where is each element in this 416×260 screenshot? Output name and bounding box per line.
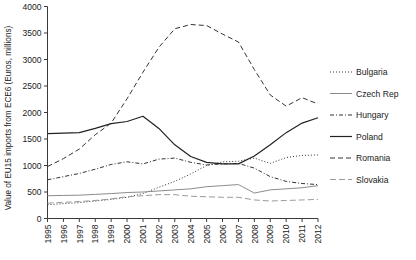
x-tick-label: 1999 xyxy=(106,224,116,243)
x-tick-label: 2002 xyxy=(154,224,164,243)
series-line-bulgaria xyxy=(48,155,319,205)
x-tick-label: 2007 xyxy=(234,224,244,243)
x-tick-label: 1996 xyxy=(59,224,69,243)
y-tick-label: 1000 xyxy=(23,161,42,171)
x-tick-label: 2012 xyxy=(313,224,323,243)
legend-label-hungary[interactable]: Hungary xyxy=(356,110,389,120)
chart-figure: Value of EU15 imports from ECE6 (Euros, … xyxy=(0,0,416,260)
y-tick-label: 3500 xyxy=(23,28,42,38)
x-tick-labels: 1995199619971998199920002001200220032004… xyxy=(43,224,324,243)
series-line-hungary xyxy=(48,158,319,185)
series-line-poland xyxy=(48,116,319,164)
x-tick-label: 1995 xyxy=(43,224,53,243)
y-tick-label: 2000 xyxy=(23,108,42,118)
x-tick-label: 2003 xyxy=(170,224,180,243)
x-tick-label: 2005 xyxy=(202,224,212,243)
y-tick-marks xyxy=(44,7,48,219)
y-tick-label: 4000 xyxy=(23,2,42,12)
chart-legend: BulgariaCzech RepHungaryPolandRomaniaSlo… xyxy=(330,67,399,185)
x-tick-marks xyxy=(48,219,319,223)
x-tick-label: 2011 xyxy=(297,224,307,243)
x-tick-label: 2006 xyxy=(218,224,228,243)
series-line-slovakia xyxy=(48,195,319,203)
series-lines xyxy=(48,25,319,205)
x-tick-label: 2009 xyxy=(265,224,275,243)
y-tick-labels: 05001000150020002500300035004000 xyxy=(23,2,42,224)
y-tick-label: 1500 xyxy=(23,134,42,144)
x-tick-label: 1997 xyxy=(75,224,85,243)
x-tick-label: 2008 xyxy=(250,224,260,243)
series-line-romania xyxy=(48,25,319,167)
y-tick-label: 500 xyxy=(27,187,41,197)
x-tick-label: 2010 xyxy=(281,224,291,243)
y-tick-label: 3000 xyxy=(23,55,42,65)
legend-label-poland[interactable]: Poland xyxy=(356,132,383,142)
line-chart: Value of EU15 imports from ECE6 (Euros, … xyxy=(0,0,416,260)
legend-label-slovakia[interactable]: Slovakia xyxy=(356,175,389,185)
y-axis-label: Value of EU15 imports from ECE6 (Euros, … xyxy=(4,25,13,210)
x-tick-label: 1998 xyxy=(90,224,100,243)
legend-label-bulgaria[interactable]: Bulgaria xyxy=(356,67,388,77)
legend-label-romania[interactable]: Romania xyxy=(356,153,391,163)
x-tick-label: 2000 xyxy=(122,224,132,243)
y-axis-label-group: Value of EU15 imports from ECE6 (Euros, … xyxy=(4,25,13,210)
y-tick-label: 2500 xyxy=(23,81,42,91)
x-tick-label: 2001 xyxy=(138,224,148,243)
series-line-czech-rep xyxy=(48,185,319,196)
y-tick-label: 0 xyxy=(37,214,42,224)
legend-label-czech-rep[interactable]: Czech Rep xyxy=(356,89,399,99)
x-tick-label: 2004 xyxy=(186,224,196,243)
